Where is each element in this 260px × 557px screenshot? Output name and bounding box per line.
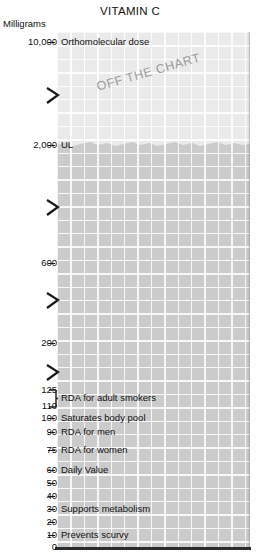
y-tick-mark	[48, 470, 55, 471]
y-tick-label: 20	[0, 517, 69, 527]
y-tick-label: 2,000	[0, 140, 69, 150]
annotation-label: UL	[61, 140, 73, 150]
y-tick-label: 30	[0, 504, 69, 514]
y-tick-label: 600	[0, 258, 69, 268]
annotation-label: Prevents scurvy	[61, 530, 129, 540]
y-tick-mark	[48, 450, 55, 451]
y-tick-label: 200	[0, 338, 69, 348]
annotation-label: Saturates body pool	[61, 413, 146, 423]
axis-break-icon	[45, 87, 61, 105]
y-tick-label: 60	[0, 465, 69, 475]
y-tick-label: 10,000	[0, 37, 69, 47]
y-tick-label: 100	[0, 413, 69, 423]
y-tick-label: 50	[0, 478, 69, 488]
smokers-range-bracket	[48, 389, 58, 408]
annotation-label: Daily Value	[61, 465, 108, 475]
axis-break-icon	[45, 292, 61, 310]
y-tick-label: 10	[0, 530, 69, 540]
y-tick-mark	[48, 418, 55, 419]
y-tick-mark	[48, 483, 55, 484]
y-tick-label: 90	[0, 427, 69, 437]
y-axis-unit-label: Milligrams	[3, 18, 46, 29]
annotation-label: Orthomolecular dose	[61, 37, 149, 47]
axis-break-icon	[45, 199, 61, 217]
y-tick-mark	[48, 509, 55, 510]
y-tick-mark	[48, 145, 55, 146]
y-tick-mark	[48, 42, 55, 43]
y-tick-mark	[48, 522, 55, 523]
y-tick-label: 75	[0, 445, 69, 455]
y-tick-mark	[48, 535, 55, 536]
y-tick-mark	[48, 496, 55, 497]
y-tick-mark	[48, 263, 55, 264]
axis-break-icon	[45, 364, 61, 382]
y-tick-mark	[48, 432, 55, 433]
vitamin-c-chart: VITAMIN C Milligrams OFF THE CHART 10,00…	[0, 0, 260, 557]
x-axis-baseline	[55, 547, 251, 550]
annotation-label: RDA for women	[61, 445, 128, 455]
y-tick-label: 40	[0, 491, 69, 501]
page-title: VITAMIN C	[0, 5, 260, 17]
annotation-label: Supports metabolism	[61, 504, 150, 514]
annotation-label: RDA for adult smokers	[61, 393, 156, 403]
y-tick-mark	[48, 343, 55, 344]
y-tick-label: 0	[0, 542, 61, 552]
annotation-label: RDA for men	[61, 427, 115, 437]
